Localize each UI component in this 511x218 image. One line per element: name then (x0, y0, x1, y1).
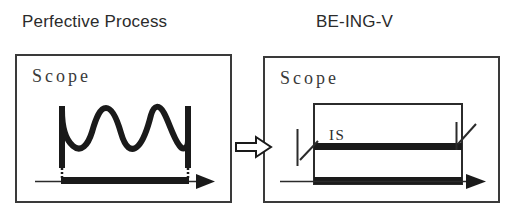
is-label: IS (329, 127, 345, 144)
scope-label-right: Scope (280, 68, 339, 89)
figure-caption (88, 206, 208, 216)
figure-canvas: Perfective Process BE-ING-V Scope Scope … (0, 0, 511, 218)
scope-label-left: Scope (32, 66, 91, 87)
panel-title-left: Perfective Process (22, 12, 167, 32)
panel-title-right: BE-ING-V (316, 12, 393, 32)
